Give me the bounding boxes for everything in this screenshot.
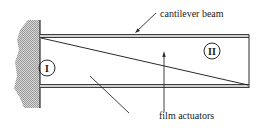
region-2-label: II xyxy=(208,46,216,57)
actuator-leader-diagonal xyxy=(90,76,129,113)
fixed-wall xyxy=(14,20,40,108)
region-1-marker: I xyxy=(39,60,55,76)
region-2-marker: II xyxy=(204,43,220,59)
top-beam-layer xyxy=(40,35,249,38)
actuator-leader-arrowhead xyxy=(162,51,165,57)
actuators-label: film actuators xyxy=(159,110,214,121)
region-1-label: I xyxy=(45,63,49,74)
bottom-beam-layer xyxy=(40,85,249,88)
beam-leader-line xyxy=(136,13,156,32)
beam-label: cantilever beam xyxy=(160,8,224,19)
cantilever-diagram: I II cantilever beam film actuators xyxy=(0,0,262,130)
